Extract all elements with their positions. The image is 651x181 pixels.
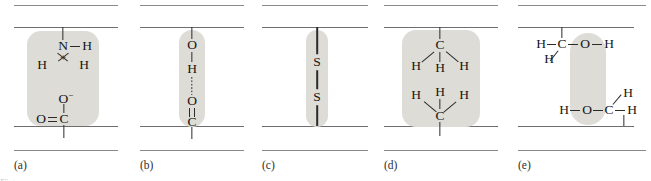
bond-a-n-h-right xyxy=(70,46,80,47)
chain-line-d-top-outer xyxy=(384,5,498,6)
atom-e-o-bottom: O xyxy=(582,103,592,117)
bond-d-c-bottom-to-chain xyxy=(439,122,440,136)
bond-e-o-h-top xyxy=(592,44,602,45)
figure-caption-fragment: Figure xyxy=(0,176,651,181)
chain-line-b-bottom-outer xyxy=(140,150,244,151)
chain-line-b-top-outer xyxy=(140,5,244,6)
atom-d-h-bottom-left: H xyxy=(411,88,421,102)
bond-a-c-to-chain xyxy=(63,125,64,138)
atom-a-o-minus: O− xyxy=(59,89,74,106)
atom-b-o-top: O xyxy=(187,38,197,52)
atom-d-h-top-mid: H xyxy=(435,61,445,75)
chain-line-c-top-inner xyxy=(262,27,368,28)
chain-line-e-bottom-outer xyxy=(518,150,646,151)
atom-e-h-top-lower: H xyxy=(544,52,554,66)
atom-e-h-bottom-left: H xyxy=(559,103,569,117)
atom-d-c-top: C xyxy=(435,38,444,52)
panel-d: C H H H H H H C (d) xyxy=(376,0,508,181)
atom-d-h-top-right: H xyxy=(459,59,469,73)
atom-b-h: H xyxy=(187,62,197,76)
panel-label-d: (d) xyxy=(384,160,397,172)
chain-line-d-top-inner xyxy=(384,27,498,28)
chain-line-e-bottom-inner xyxy=(518,126,634,127)
panel-c: S S (c) xyxy=(252,0,376,181)
panel-label-e: (e) xyxy=(518,160,531,172)
chain-line-a-top-outer xyxy=(14,5,118,6)
panel-e: H C O H H H O C H H (e) xyxy=(508,0,651,181)
panel-label-a: (a) xyxy=(14,160,27,172)
atom-c-s-bottom: S xyxy=(311,89,323,105)
atom-e-c-bottom: C xyxy=(604,103,613,117)
bond-e-c-to-chain-bottom xyxy=(623,115,624,126)
bond-e-o-c-bottom xyxy=(593,110,603,111)
chain-line-e-top-inner xyxy=(518,27,634,28)
atom-e-h-bottom-upper: H xyxy=(623,86,633,100)
chain-line-c-top-outer xyxy=(262,5,368,6)
atom-e-h-top-left: H xyxy=(536,37,546,51)
atom-e-h-top-right: H xyxy=(604,37,614,51)
panel-a: N H + H H O− C O (a) xyxy=(0,0,128,181)
bond-a-double-lower xyxy=(48,121,57,122)
atom-a-h-right: H xyxy=(82,39,92,53)
chain-line-a-bottom-outer xyxy=(14,150,118,151)
bond-e-h-o-bottom xyxy=(570,110,580,111)
atom-e-o-top: O xyxy=(580,37,590,51)
chain-line-a-top-inner xyxy=(14,27,118,28)
atom-e-c-top: C xyxy=(557,37,566,51)
bond-e-c-o-top xyxy=(568,44,578,45)
atom-a-c: C xyxy=(59,112,68,126)
panel-label-c: (c) xyxy=(262,160,275,172)
atom-c-s-top: S xyxy=(311,54,323,70)
protein-interactions-figure: N H + H H O− C O (a) O H O C (b) xyxy=(0,0,651,181)
chain-line-c-bottom-outer xyxy=(262,150,368,151)
atom-d-h-top-left: H xyxy=(411,59,421,73)
atom-d-c-bottom: C xyxy=(435,109,444,123)
bond-a-double-upper xyxy=(48,117,57,118)
panel-b: O H O C (b) xyxy=(128,0,252,181)
bond-b-c-to-chain xyxy=(191,127,192,139)
chain-line-e-top-outer xyxy=(518,5,646,6)
bond-e-c-h-bottom-upper xyxy=(613,94,622,105)
bond-e-c-h-bottom-right xyxy=(615,110,625,111)
bond-e-h-c-top xyxy=(547,44,556,45)
atom-a-o-double: O xyxy=(36,112,46,126)
atom-b-o-bottom: O xyxy=(187,94,197,108)
atom-d-h-bottom-mid: H xyxy=(435,85,445,99)
atom-e-h-bottom-right: H xyxy=(627,103,637,117)
atom-a-h-lower-left: H xyxy=(37,58,47,72)
atom-a-h-lower-right: H xyxy=(79,58,89,72)
atom-d-h-bottom-right: H xyxy=(459,88,469,102)
disulfide-bond-line xyxy=(316,27,318,126)
panel-label-b: (b) xyxy=(140,160,153,172)
charge-a-minus: − xyxy=(68,90,73,100)
chain-line-d-bottom-outer xyxy=(384,150,498,151)
